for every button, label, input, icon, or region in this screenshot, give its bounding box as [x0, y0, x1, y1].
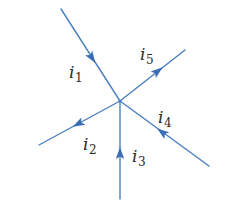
label-i2: i2 [83, 134, 97, 157]
label-i3: i3 [132, 146, 146, 169]
kirchhoff-junction-diagram: i1i2i3i4i5 [0, 0, 236, 210]
arrow-icon-i1 [85, 51, 99, 66]
arrow-icon-i2 [71, 117, 86, 130]
diagram-svg: i1i2i3i4i5 [0, 0, 236, 210]
label-i4: i4 [158, 107, 172, 130]
label-i1: i1 [69, 62, 83, 85]
wires-group [39, 9, 209, 199]
label-i5: i5 [140, 44, 154, 67]
junction-node [118, 99, 121, 102]
